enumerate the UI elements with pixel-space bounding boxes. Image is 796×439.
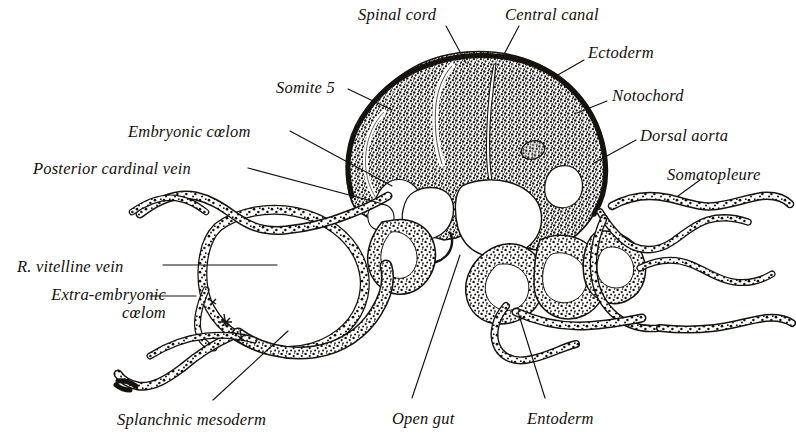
- dorsal-aorta-lumen: [545, 166, 583, 208]
- embryology-figure: Spinal cord Central canal Ectoderm Notoc…: [0, 0, 796, 439]
- leader-ectoderm: [556, 60, 584, 76]
- label-ectoderm: Ectoderm: [588, 44, 654, 62]
- label-extra-embryonic-coelom: Extra-embryonic cœlom: [6, 286, 166, 323]
- label-posterior-cardinal-vein: Posterior cardinal vein: [33, 160, 191, 178]
- label-embryonic-coelom: Embryonic cœlom: [128, 123, 251, 141]
- label-r-vitelline-vein: R. vitelline vein: [17, 258, 123, 276]
- label-splanchnic-mesoderm: Splanchnic mesoderm: [117, 411, 266, 429]
- right-lower-membrane-stipple: [660, 318, 792, 330]
- label-dorsal-aorta: Dorsal aorta: [640, 127, 728, 145]
- label-central-canal: Central canal: [505, 6, 599, 24]
- label-somite-5: Somite 5: [276, 79, 335, 97]
- section-illustration: [0, 0, 796, 439]
- label-somatopleure: Somatopleure: [667, 166, 760, 184]
- label-spinal-cord: Spinal cord: [358, 6, 436, 24]
- label-open-gut: Open gut: [392, 410, 455, 428]
- right-somatopleure-band-stipple: [612, 196, 790, 207]
- label-notochord: Notochord: [612, 87, 684, 105]
- label-entoderm: Entoderm: [527, 410, 594, 428]
